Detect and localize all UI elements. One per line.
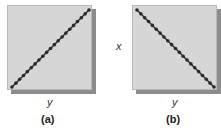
caption-a: (a): [41, 113, 54, 125]
data-point: [135, 8, 139, 12]
data-point: [68, 27, 72, 31]
data-point: [189, 62, 193, 66]
data-point: [151, 24, 155, 28]
data-point: [76, 20, 80, 24]
data-point: [53, 43, 57, 47]
data-point: [181, 54, 185, 58]
data-point: [56, 39, 60, 43]
data-point: [193, 66, 197, 70]
data-point: [205, 78, 209, 82]
y-axis-label-b: x: [116, 40, 122, 52]
data-point: [87, 8, 91, 12]
plot-area-a: [7, 5, 92, 90]
data-point: [170, 43, 174, 47]
data-point: [18, 78, 22, 82]
data-point: [158, 31, 162, 35]
data-point: [41, 54, 45, 58]
data-point: [64, 31, 68, 35]
scatter-negative: [133, 6, 218, 91]
data-point: [212, 85, 216, 89]
data-point: [22, 74, 26, 78]
scatter-positive: [8, 6, 93, 91]
data-point: [162, 35, 166, 39]
data-point: [33, 62, 37, 66]
data-point: [178, 51, 182, 55]
data-point: [26, 70, 30, 74]
plot-area-b: [132, 5, 217, 90]
data-point: [29, 66, 33, 70]
x-axis-label-b: y: [172, 96, 178, 108]
data-point: [201, 74, 205, 78]
data-point: [143, 16, 147, 20]
caption-b: (b): [166, 113, 180, 125]
data-point: [166, 39, 170, 43]
panel-a: [7, 5, 92, 90]
panel-b: [132, 5, 217, 90]
data-point: [139, 12, 143, 16]
data-point: [72, 24, 76, 28]
data-point: [185, 58, 189, 62]
data-point: [197, 70, 201, 74]
data-point: [60, 35, 64, 39]
data-point: [37, 58, 41, 62]
x-axis-label-a: y: [47, 96, 53, 108]
data-point: [45, 51, 49, 55]
data-point: [208, 81, 212, 85]
data-point: [10, 85, 14, 89]
data-point: [80, 16, 84, 20]
data-point: [49, 47, 53, 51]
data-point: [147, 20, 151, 24]
data-point: [14, 81, 18, 85]
data-point: [83, 12, 87, 16]
data-point: [174, 47, 178, 51]
data-point: [154, 27, 158, 31]
